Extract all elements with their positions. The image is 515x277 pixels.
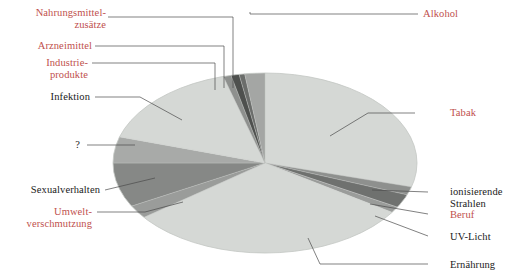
label-uv-licht: UV-Licht bbox=[450, 231, 491, 243]
label-ernaehrung: Ernährung bbox=[450, 259, 495, 271]
label-umweltverschmutzung: Umwelt- verschmutzung bbox=[2, 206, 92, 229]
label-line: Arzneimittel bbox=[2, 40, 92, 52]
label-line: zusätze bbox=[2, 19, 106, 31]
label-line: verschmutzung bbox=[2, 218, 92, 230]
pie-chart-figure: Nahrungsmittel- zusätze Arzneimittel Ind… bbox=[0, 0, 515, 277]
pie-slices bbox=[92, 48, 430, 275]
label-line: Industrie- bbox=[2, 57, 88, 69]
label-line: Strahlen bbox=[450, 198, 503, 210]
label-line: Infektion bbox=[2, 91, 90, 103]
label-ionisierende-strahlen: ionisierende Strahlen bbox=[450, 186, 503, 209]
label-line: Nahrungsmittel- bbox=[2, 7, 106, 19]
label-line: ionisierende bbox=[450, 186, 503, 198]
leader-alkohol bbox=[250, 12, 418, 14]
label-line: UV-Licht bbox=[450, 231, 491, 243]
label-arzneimittel: Arzneimittel bbox=[2, 40, 92, 52]
label-line: Tabak bbox=[450, 107, 476, 119]
label-beruf: Beruf bbox=[450, 209, 474, 221]
label-line: Umwelt- bbox=[2, 206, 92, 218]
label-infektion: Infektion bbox=[2, 91, 90, 103]
label-alkohol: Alkohol bbox=[423, 8, 458, 20]
label-line: Beruf bbox=[450, 209, 474, 221]
label-line: Alkohol bbox=[423, 8, 458, 20]
label-line: Ernährung bbox=[450, 259, 495, 271]
label-nahrungsmittelzusaetze: Nahrungsmittel- zusätze bbox=[2, 7, 106, 30]
label-line: Sexualverhalten bbox=[2, 184, 100, 196]
label-unknown: ? bbox=[40, 139, 80, 151]
leader-uv-licht bbox=[375, 216, 428, 236]
label-industrieprodukte: Industrie- produkte bbox=[2, 57, 88, 80]
label-line: produkte bbox=[2, 69, 88, 81]
label-tabak: Tabak bbox=[450, 107, 476, 119]
leader-nahrungsmittelzusaetze bbox=[108, 17, 233, 88]
label-line: ? bbox=[40, 139, 80, 151]
label-sexualverhalten: Sexualverhalten bbox=[2, 184, 100, 196]
